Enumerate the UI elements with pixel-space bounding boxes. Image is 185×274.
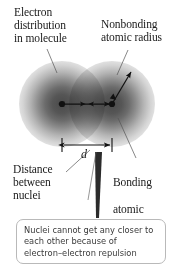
label-electron-distribution: Electron distribution in molecule [14, 6, 67, 46]
caption-text: Nuclei cannot get any closer to each oth… [24, 225, 158, 259]
label-distance-between-nuclei: Distance between nuclei [13, 163, 52, 203]
figure-bonding-atomic-radius: Electron distribution in molecule Nonbon… [0, 0, 185, 274]
caption-pointer-guide [88, 152, 96, 200]
caption-pointer [95, 152, 102, 218]
dimension-label-d: d [81, 147, 87, 162]
left-nucleus-dot [59, 101, 65, 107]
label-nonbonding-atomic-radius: Nonbonding atomic radius [101, 18, 162, 44]
bonding-label-line1: Bonding [113, 176, 152, 188]
leader-line-nonbonding-radius [117, 50, 128, 75]
leader-line-bonding-radius [118, 118, 136, 158]
leader-line-electron-distribution [47, 49, 57, 73]
nonbonding-arrow-barb [110, 94, 116, 100]
bonding-label-line2: atomic [113, 203, 144, 215]
right-nucleus-dot [109, 101, 115, 107]
caption-callout-box: Nuclei cannot get any closer to each oth… [16, 219, 166, 264]
